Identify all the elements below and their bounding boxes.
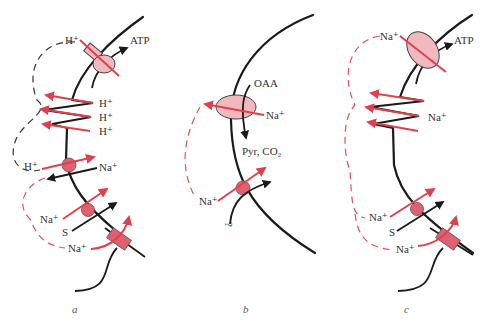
flagellum-a xyxy=(75,248,117,291)
membrane-b xyxy=(231,15,315,253)
panel-b: OAA Na⁺ Pyr, CO₂ Na⁺ ? b xyxy=(185,15,315,315)
panel-a: H⁺ ATP H⁺ H⁺ H⁺ H⁺ Na⁺ Na⁺ S Na⁺ a xyxy=(13,17,149,315)
label-h3-a: H⁺ xyxy=(99,125,113,137)
antiporter-a xyxy=(62,158,76,172)
label-q-b: ? xyxy=(223,222,235,227)
label-s-a: S xyxy=(62,226,68,238)
label-na-bottom-a: Na⁺ xyxy=(68,242,87,254)
label-na-right-b: Na⁺ xyxy=(266,109,285,121)
label-atp-a: ATP xyxy=(130,34,150,46)
label-na-right-a: Na⁺ xyxy=(99,161,118,173)
label-s-c: S xyxy=(389,226,395,238)
label-na-left-b: Na⁺ xyxy=(199,195,218,207)
label-h-left-a: H⁺ xyxy=(24,160,38,172)
label-atp-c: ATP xyxy=(454,34,474,46)
bioenergetics-diagram: H⁺ ATP H⁺ H⁺ H⁺ H⁺ Na⁺ Na⁺ S Na⁺ a OAA N… xyxy=(0,0,484,326)
label-h2-a: H⁺ xyxy=(99,111,113,123)
symporter-c xyxy=(411,203,424,216)
label-h1-a: H⁺ xyxy=(99,97,113,109)
label-h-top-a: H⁺ xyxy=(65,34,79,46)
panel-c: Na⁺ ATP Na⁺ Na⁺ S Na⁺ c xyxy=(345,15,474,315)
label-na-right-c: Na⁺ xyxy=(428,111,447,123)
panel-label-a: a xyxy=(72,303,78,315)
panel-label-c: c xyxy=(404,303,409,315)
panel-label-b: b xyxy=(243,303,249,315)
label-na-bottom-c: Na⁺ xyxy=(396,243,415,255)
label-pyr-b: Pyr, CO₂ xyxy=(242,145,282,157)
label-na-top-c: Na⁺ xyxy=(380,30,399,42)
label-na-mid-c: Na⁺ xyxy=(369,211,388,223)
label-oaa-b: OAA xyxy=(254,77,278,89)
label-na-mid-a: Na⁺ xyxy=(40,213,59,225)
